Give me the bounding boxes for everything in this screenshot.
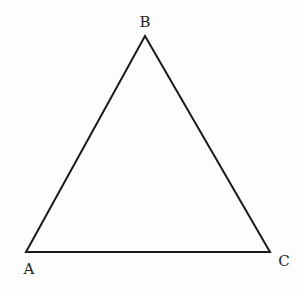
vertex-label-c: C (278, 252, 289, 270)
triangle-canvas: A B C (0, 0, 304, 292)
triangle-diagram: A B C (0, 0, 304, 292)
triangle-abc (26, 36, 270, 252)
vertex-label-a: A (23, 260, 35, 278)
vertex-label-b: B (139, 13, 150, 31)
